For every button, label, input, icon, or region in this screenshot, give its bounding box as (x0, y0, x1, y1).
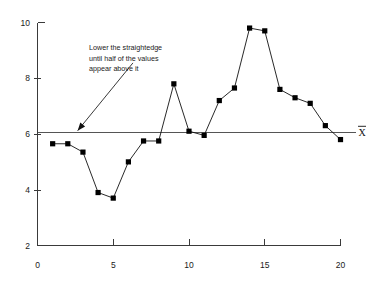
x-tick-label-5: 5 (111, 260, 116, 270)
data-point (96, 190, 101, 195)
chart-canvas: 10 8 6 4 2 0 5 10 15 20 X (0, 0, 377, 286)
data-point (156, 138, 161, 143)
annotation-arrowhead (78, 123, 85, 131)
annotation-line-3: appear above it (89, 64, 139, 73)
x-axis-ticks (113, 239, 264, 246)
axis-spines (38, 23, 341, 246)
annotation-leader (78, 63, 133, 131)
data-point (262, 28, 267, 33)
x-tick-label-10: 10 (184, 260, 194, 270)
x-tick-label-0: 0 (35, 260, 40, 270)
annotation-line-2: until half of the values (89, 54, 159, 63)
data-point (338, 137, 343, 142)
x-bar-label-group: X (358, 126, 366, 138)
x-tick-label-15: 15 (260, 260, 270, 270)
data-point (217, 98, 222, 103)
data-point (111, 196, 116, 201)
data-point (141, 138, 146, 143)
x-tick-label-20: 20 (336, 260, 346, 270)
run-chart-figure: 10 8 6 4 2 0 5 10 15 20 X (0, 0, 377, 286)
data-point (171, 81, 176, 86)
annotation-line-1: Lower the straightedge (89, 43, 162, 52)
x-bar-label: X (358, 127, 366, 138)
annotation-text-block: Lower the straightedge until half of the… (89, 43, 162, 73)
x-axis-tick-labels: 0 5 10 15 20 (35, 260, 345, 270)
y-tick-label-6: 6 (25, 129, 30, 139)
annotation-arrow-line (78, 63, 133, 131)
data-point (202, 133, 207, 138)
y-tick-label-2: 2 (25, 241, 30, 251)
data-point (126, 159, 131, 164)
data-point (186, 129, 191, 134)
data-point (50, 141, 55, 146)
y-axis-tick-labels: 10 8 6 4 2 (21, 18, 31, 252)
data-point (277, 87, 282, 92)
y-tick-label-10: 10 (21, 18, 31, 28)
data-point (323, 123, 328, 128)
data-point (232, 85, 237, 90)
y-tick-label-4: 4 (25, 185, 30, 195)
y-tick-label-8: 8 (25, 73, 30, 83)
data-point (65, 141, 70, 146)
data-point (247, 25, 252, 30)
data-point (308, 101, 313, 106)
data-point (80, 150, 85, 155)
data-point (292, 95, 297, 100)
